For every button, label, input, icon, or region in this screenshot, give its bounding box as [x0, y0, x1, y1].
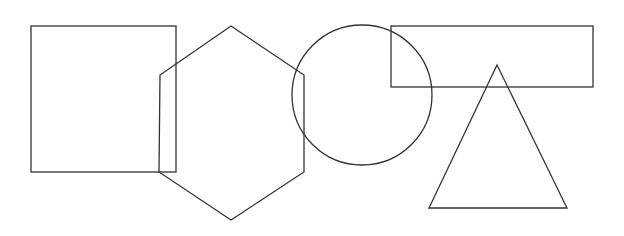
- hexagon-shape: [159, 26, 304, 220]
- rectangle-shape: [391, 26, 593, 87]
- square-shape: [31, 26, 176, 172]
- circle-shape: [292, 25, 432, 165]
- shapes-canvas: [0, 0, 624, 236]
